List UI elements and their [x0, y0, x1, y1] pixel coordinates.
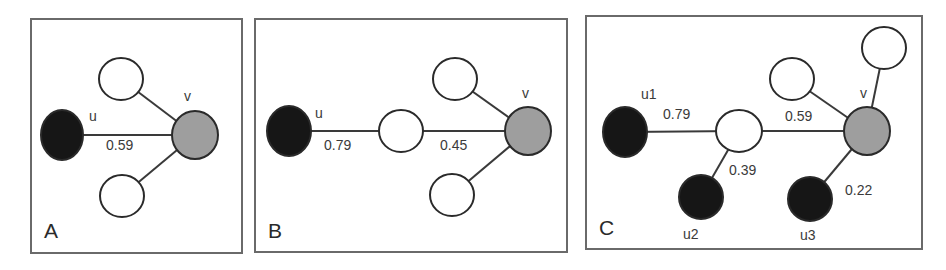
panel-label: A — [44, 219, 58, 242]
intermediate-node — [430, 174, 474, 216]
panel-a: uv0.59A — [31, 19, 242, 253]
node-label: u3 — [800, 227, 816, 243]
intermediate-node — [433, 58, 477, 100]
node-label: u1 — [641, 86, 657, 102]
panel-label: B — [268, 219, 282, 242]
edge-weight-label: 0.59 — [785, 108, 812, 124]
target-node — [505, 107, 551, 155]
source-node — [603, 107, 647, 157]
intermediate-node — [99, 58, 143, 100]
source-node — [41, 110, 83, 160]
intermediate-node — [716, 110, 762, 152]
intermediate-node — [862, 27, 906, 69]
source-node — [679, 175, 723, 219]
source-node — [788, 177, 832, 221]
intermediate-node — [379, 110, 423, 152]
source-node — [267, 106, 311, 156]
edge-weight-label: 0.39 — [729, 162, 756, 178]
edge-weight-label: 0.22 — [845, 182, 872, 198]
node-label: v — [860, 85, 867, 101]
intermediate-node — [100, 175, 144, 217]
panel-c: u1u2vu30.790.590.390.22C — [586, 16, 922, 249]
node-label: v — [522, 85, 529, 101]
panel-b: uv0.790.45B — [255, 19, 567, 252]
edge-weight-label: 0.79 — [663, 106, 690, 122]
intermediate-node — [770, 58, 814, 100]
target-node — [844, 107, 890, 155]
node-label: u — [89, 108, 97, 124]
node-label: u — [315, 105, 323, 121]
edge-weight-label: 0.45 — [440, 137, 467, 153]
edge-weight-label: 0.79 — [324, 137, 351, 153]
target-node — [172, 111, 218, 159]
network-diagram: uv0.59Auv0.790.45Bu1u2vu30.790.590.390.2… — [0, 0, 946, 270]
panel-label: C — [599, 216, 614, 239]
edge-weight-label: 0.59 — [106, 137, 133, 153]
node-label: v — [184, 88, 191, 104]
node-label: u2 — [683, 226, 699, 242]
